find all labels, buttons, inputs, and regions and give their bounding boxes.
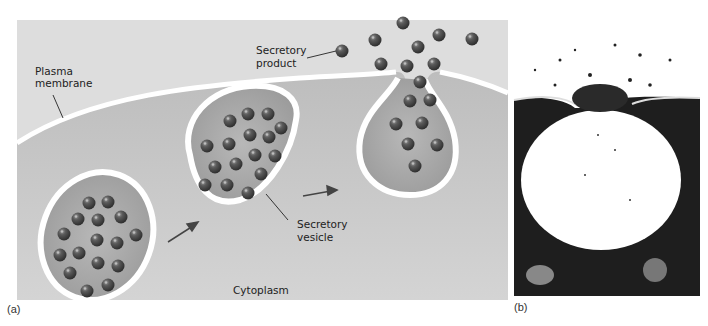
micrograph-panel-b <box>514 20 700 296</box>
label-secretory-product-line1: Secretory <box>256 44 307 56</box>
label-secretory-vesicle-line2: vesicle <box>297 231 333 243</box>
diagram-panel-a <box>0 0 708 326</box>
exocytosis-figure: Plasma membrane Secretory product Secret… <box>0 0 708 326</box>
label-cytoplasm: Cytoplasm <box>233 284 289 296</box>
label-secretory-vesicle-line1: Secretory <box>297 218 348 230</box>
label-plasma-membrane-line2: membrane <box>35 77 92 89</box>
label-plasma-membrane-line1: Plasma <box>35 65 73 77</box>
panel-letter-b: (b) <box>514 301 527 313</box>
label-secretory-product-line2: product <box>256 57 296 69</box>
panel-letter-a: (a) <box>7 303 20 315</box>
